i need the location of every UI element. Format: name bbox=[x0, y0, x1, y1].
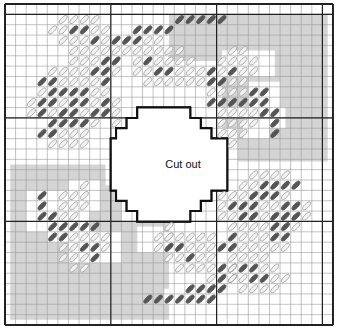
stitch-dark bbox=[238, 263, 248, 273]
stitch-light bbox=[122, 45, 132, 55]
stitch-light bbox=[259, 284, 269, 294]
stitch-light bbox=[174, 253, 184, 263]
stitch-light bbox=[248, 242, 258, 252]
stitch-light bbox=[280, 190, 290, 200]
stitch-dark bbox=[248, 190, 258, 200]
stitch-light bbox=[206, 273, 216, 283]
stitch-light bbox=[259, 211, 269, 221]
stitch-dark bbox=[217, 263, 227, 273]
stitch-dark bbox=[280, 211, 290, 221]
stitch-dark bbox=[47, 97, 57, 107]
stitch-light bbox=[238, 221, 248, 231]
stitch-light bbox=[47, 139, 57, 149]
stitch-light bbox=[238, 242, 248, 252]
stitch-light bbox=[206, 263, 216, 273]
stitch-dark bbox=[270, 221, 280, 231]
stitch-light bbox=[174, 263, 184, 273]
stitch-light bbox=[217, 128, 227, 138]
stitch-dark bbox=[37, 77, 47, 87]
stitch-light bbox=[206, 232, 216, 242]
stitch-dark bbox=[259, 190, 269, 200]
stitch-light bbox=[259, 253, 269, 263]
stitch-dark bbox=[79, 118, 89, 128]
stitch-light bbox=[111, 118, 121, 128]
stitch-dark bbox=[291, 201, 301, 211]
stitch-dark bbox=[58, 118, 68, 128]
stitch-light bbox=[185, 232, 195, 242]
stitch-light bbox=[227, 273, 237, 283]
stitch-light bbox=[238, 284, 248, 294]
stitch-dark bbox=[259, 180, 269, 190]
stitch-light bbox=[280, 170, 290, 180]
stitch-dark bbox=[248, 211, 258, 221]
stitch-light bbox=[196, 242, 206, 252]
stitch-light bbox=[248, 253, 258, 263]
stitch-light bbox=[26, 108, 36, 118]
stitch-dark bbox=[248, 273, 258, 283]
stitch-light bbox=[196, 232, 206, 242]
stitch-light bbox=[238, 273, 248, 283]
stitch-light bbox=[227, 139, 237, 149]
stitch-light bbox=[270, 242, 280, 252]
stitch-light bbox=[227, 221, 237, 231]
stitch-light bbox=[238, 180, 248, 190]
stitch-dark bbox=[270, 190, 280, 200]
stitch-light bbox=[111, 108, 121, 118]
stitch-light bbox=[196, 263, 206, 273]
stitch-light bbox=[132, 56, 142, 66]
stitch-dark bbox=[132, 35, 142, 45]
stitch-light bbox=[79, 128, 89, 138]
stitch-dark bbox=[47, 128, 57, 138]
stitch-dark bbox=[217, 284, 227, 294]
stitch-light bbox=[259, 221, 269, 231]
stitch-dark bbox=[227, 232, 237, 242]
stitch-light bbox=[206, 242, 216, 252]
stitch-light bbox=[185, 263, 195, 273]
stitch-light bbox=[143, 45, 153, 55]
stitch-light bbox=[227, 190, 237, 200]
stitch-dark bbox=[47, 118, 57, 128]
stitch-dark bbox=[47, 77, 57, 87]
stitch-light bbox=[143, 35, 153, 45]
stitch-light bbox=[69, 139, 79, 149]
stitch-light bbox=[153, 56, 163, 66]
stitch-light bbox=[280, 273, 290, 283]
stitch-light bbox=[227, 211, 237, 221]
stitch-light bbox=[259, 201, 269, 211]
stitch-dark bbox=[238, 211, 248, 221]
stitch-dark bbox=[132, 25, 142, 35]
stitch-light bbox=[206, 253, 216, 263]
stitch-light bbox=[100, 25, 110, 35]
stitch-light bbox=[248, 232, 258, 242]
stitch-dark bbox=[291, 180, 301, 190]
stitch-light bbox=[238, 232, 248, 242]
stitch-light bbox=[143, 66, 153, 76]
stitch-dark bbox=[217, 242, 227, 252]
stitch-light bbox=[270, 170, 280, 180]
stitch-light bbox=[259, 170, 269, 180]
stitch-light bbox=[132, 66, 142, 76]
stitch-dark bbox=[69, 118, 79, 128]
stitch-light bbox=[291, 221, 301, 231]
stitch-dark bbox=[280, 221, 290, 231]
stitch-dark bbox=[259, 273, 269, 283]
stitch-dark bbox=[122, 35, 132, 45]
stitch-light bbox=[270, 263, 280, 273]
stitch-dark bbox=[100, 108, 110, 118]
stitch-dark bbox=[270, 232, 280, 242]
stitch-light bbox=[248, 221, 258, 231]
stitch-light bbox=[153, 77, 163, 87]
stitch-light bbox=[143, 77, 153, 87]
stitch-light bbox=[248, 284, 258, 294]
stitch-dark bbox=[206, 284, 216, 294]
stitch-light bbox=[259, 242, 269, 252]
stitch-light bbox=[270, 201, 280, 211]
stitch-dark bbox=[280, 180, 290, 190]
stitch-dark bbox=[37, 128, 47, 138]
stitch-light bbox=[69, 128, 79, 138]
stitch-light bbox=[227, 253, 237, 263]
stitch-dark bbox=[37, 97, 47, 107]
cutout-label: Cut out bbox=[138, 158, 228, 170]
stitch-dark bbox=[47, 87, 57, 97]
stitch-dark bbox=[153, 25, 163, 35]
